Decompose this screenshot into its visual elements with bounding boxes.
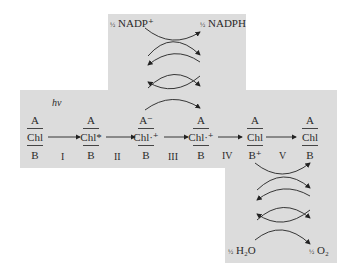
step-II: II: [114, 151, 121, 162]
chlorophyll: Chl·⁺: [131, 131, 161, 144]
light-label: hv: [52, 97, 61, 108]
donor: B: [186, 149, 216, 161]
coefficient: ½: [200, 21, 205, 29]
chlorophyll: Chl: [295, 131, 325, 143]
donor: B: [295, 149, 325, 161]
water-label: ½ H₂O: [228, 245, 256, 258]
acceptor: A: [76, 114, 106, 126]
water-text: H₂O: [236, 244, 256, 256]
acceptor: A: [186, 114, 216, 126]
nadp-text: NADP⁺: [118, 17, 154, 29]
acceptor: A⁻: [131, 114, 161, 127]
acceptor: A: [240, 114, 270, 126]
oxygen-text: O₂: [317, 244, 329, 256]
nadph-label: ½ NADPH: [200, 18, 246, 31]
step-IV: IV: [222, 150, 233, 161]
donor: B: [131, 149, 161, 161]
chlorophyll: Chl*: [76, 131, 106, 143]
nadph-text: NADPH: [208, 17, 246, 29]
nadp-cycle-arrows: [145, 28, 200, 110]
nadp-label: ½ NADP⁺: [110, 18, 154, 31]
step-I: I: [61, 151, 64, 162]
coefficient: ½: [228, 248, 233, 256]
step-III: III: [168, 151, 178, 162]
chlorophyll: Chl: [240, 131, 270, 143]
chlorophyll: Chl·⁺: [186, 131, 216, 144]
acceptor: A: [20, 114, 50, 126]
acceptor: A: [295, 114, 325, 126]
donor: B⁺: [240, 149, 270, 162]
water-cycle-arrows: [255, 163, 310, 244]
chlorophyll: Chl: [20, 131, 50, 143]
donor: B: [20, 149, 50, 161]
donor: B: [76, 149, 106, 161]
step-V: V: [279, 150, 286, 161]
coefficient: ½: [309, 248, 314, 256]
coefficient: ½: [110, 21, 115, 29]
oxygen-label: ½ O₂: [309, 245, 329, 258]
